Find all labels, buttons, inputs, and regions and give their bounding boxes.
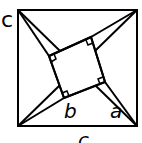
label-b: b xyxy=(64,101,77,121)
label-c-corner: c xyxy=(1,9,13,31)
label-c-bottom: c xyxy=(78,130,89,143)
label-a: a xyxy=(110,101,122,121)
